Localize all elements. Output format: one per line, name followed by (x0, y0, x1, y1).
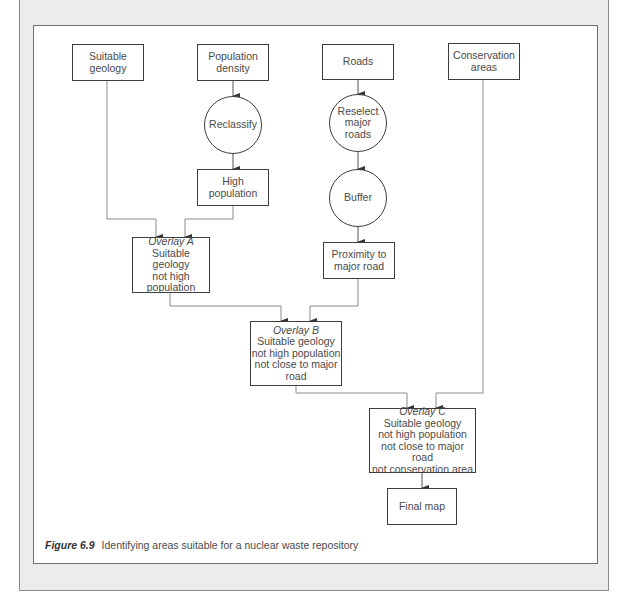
node-label: population (147, 282, 195, 294)
node-buffer: Buffer (329, 169, 387, 227)
figure-label: Figure 6.9 (45, 539, 95, 551)
node-label: Buffer (344, 192, 372, 204)
node-label: not close to major road (370, 441, 475, 464)
node-label: Suitable geology (133, 248, 209, 271)
edge-highpop-overlayA (185, 205, 233, 237)
node-label: Conservation (453, 50, 515, 62)
node-label: Suitable (89, 51, 127, 63)
node-label: major road (334, 261, 384, 273)
node-label: geology (90, 63, 127, 75)
node-population-density: Population density (197, 44, 269, 81)
figure-caption: Figure 6.9 Identifying areas suitable fo… (45, 539, 358, 551)
node-label: roads (345, 129, 371, 141)
edge-geology-overlayA (107, 80, 156, 237)
node-title: Overlay C (399, 406, 446, 418)
node-overlay-b: Overlay B Suitable geology not high popu… (250, 321, 342, 386)
node-label: Proximity to (332, 249, 387, 261)
node-overlay-c: Overlay C Suitable geology not high popu… (369, 408, 476, 473)
node-label: High (222, 176, 244, 188)
edge-overlayA-overlayB (170, 292, 281, 321)
node-proximity-to-major-road: Proximity to major road (323, 242, 395, 279)
node-high-population: High population (197, 169, 269, 206)
node-label: not high population (378, 429, 467, 441)
node-label: Final map (399, 501, 445, 513)
connector-lines (0, 0, 631, 596)
node-label: density (216, 63, 249, 75)
node-label: Roads (343, 56, 373, 68)
node-label: Population (208, 51, 258, 63)
node-label: population (209, 188, 257, 200)
figure-caption-text: Identifying areas suitable for a nuclear… (102, 539, 359, 551)
node-roads: Roads (322, 44, 394, 80)
node-suitable-geology: Suitable geology (72, 44, 144, 81)
edge-conservation-overlayC (436, 79, 483, 408)
edge-proximity-overlayB (310, 278, 358, 321)
node-reclassify: Reclassify (204, 96, 262, 154)
node-final-map: Final map (387, 488, 457, 525)
node-label: road (285, 371, 306, 383)
node-reselect-major-roads: Reselect major roads (329, 94, 387, 152)
edge-overlayB-overlayC (296, 385, 407, 408)
node-label: Reclassify (209, 119, 257, 131)
node-label: not conservation area (372, 464, 473, 476)
node-conservation-areas: Conservation areas (448, 43, 520, 80)
node-label: areas (471, 62, 497, 74)
node-overlay-a: Overlay A Suitable geology not high popu… (132, 237, 210, 293)
